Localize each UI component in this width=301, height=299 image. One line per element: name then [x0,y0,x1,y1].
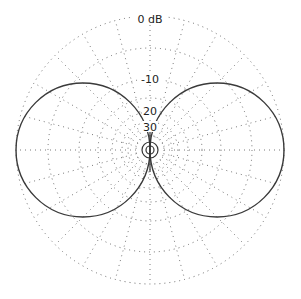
grid-spoke [55,160,140,245]
right-lobe [150,83,284,217]
left-lobe [16,83,150,217]
grid-spoke [21,154,137,185]
grid-spoke [160,160,245,245]
grid-spoke [164,115,280,146]
pattern-trace [16,83,284,217]
label-minus10: -10 [141,73,159,86]
grid-spoke [21,115,137,146]
grid-spoke [160,55,245,140]
grid-spoke [164,154,280,185]
grid-spoke [83,34,143,138]
polar-plot: 0 dB -10 20 30 [0,0,301,299]
label-0db: 0 dB [137,13,162,26]
grid-spoke [55,55,140,140]
grid-spoke [83,162,143,266]
grid-spoke [157,34,217,138]
grid-spoke [157,162,217,266]
label-minus30: 30 [143,121,157,134]
label-minus20: 20 [143,105,157,118]
